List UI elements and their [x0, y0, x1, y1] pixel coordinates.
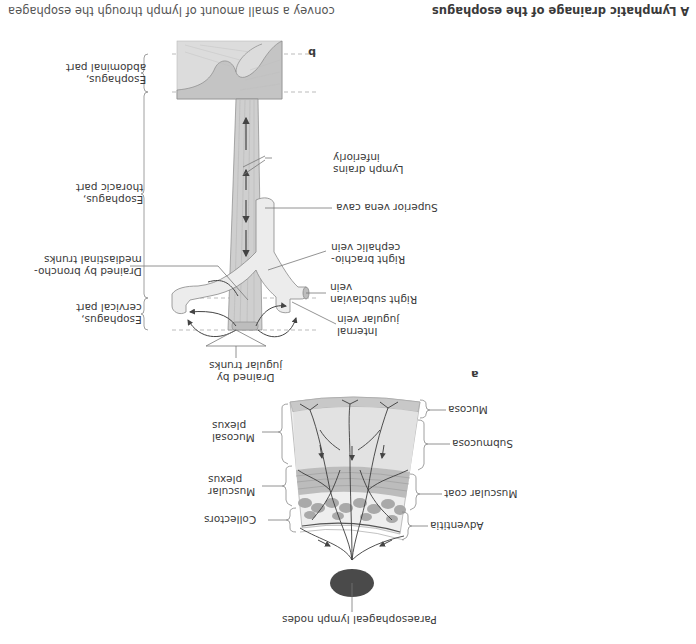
label-muscular-coat: Muscular coat	[444, 488, 517, 500]
caption-fragment: convey a small amount of lymph through t…	[8, 4, 335, 18]
plexus-braces	[262, 404, 296, 532]
label-collectors: Collectors	[204, 514, 256, 526]
label-esophagus-thoracic: Esophagus, thoracic part	[76, 182, 143, 206]
stomach-cardia	[177, 41, 282, 99]
label-esophagus-abdominal: Esophagus, abdominal part	[66, 62, 146, 86]
label-right-subclavian-vein: Right subclavian vein	[330, 282, 417, 306]
figure-title: A Lymphatic drainage of the esophagus	[432, 4, 689, 18]
label-internal-jugular-vein: Internal jugular vein	[337, 314, 399, 338]
label-adventitia: Adventitia	[430, 520, 484, 532]
label-lymph-drains-inferiorly: Lymph drains inferiorly	[333, 152, 403, 176]
label-paraesophageal-lymph-nodes: Paraesophageal lymph nodes	[282, 614, 437, 626]
label-drained-jugular: Drained by jugular trunks	[209, 360, 282, 384]
label-muscular-plexus: Muscular plexus	[208, 474, 255, 498]
figure-canvas: A Lymphatic drainage of the esophagus co…	[0, 0, 696, 644]
panel-a-artwork	[262, 397, 450, 612]
label-right-brachiocephalic-vein: Right brachio- cephalic vein	[331, 242, 405, 266]
label-mucosal-plexus: Mucosal plexus	[212, 420, 255, 444]
label-submucosa: Submucosa	[452, 438, 513, 450]
label-mucosa: Mucosa	[448, 404, 488, 416]
label-drained-broncho: Drained by broncho- mediastinal trunks	[34, 254, 142, 278]
panel-b-letter: b	[308, 46, 316, 59]
label-esophagus-cervical: Esophagus, cervical part	[76, 302, 142, 326]
label-superior-vena-cava: Superior vena cava	[336, 202, 438, 214]
panel-b-artwork	[130, 41, 336, 358]
panel-a-letter: a	[471, 368, 478, 381]
